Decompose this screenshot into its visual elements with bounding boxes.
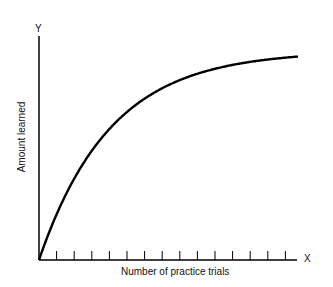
learning-curve-chart bbox=[0, 0, 333, 287]
y-axis-letter: Y bbox=[35, 23, 42, 34]
x-axis-letter: X bbox=[304, 253, 311, 264]
x-axis-label: Number of practice trials bbox=[121, 266, 229, 277]
x-axis-ticks bbox=[57, 251, 286, 260]
learning-curve-line bbox=[39, 57, 298, 260]
y-axis-label: Amount learned bbox=[16, 102, 27, 173]
